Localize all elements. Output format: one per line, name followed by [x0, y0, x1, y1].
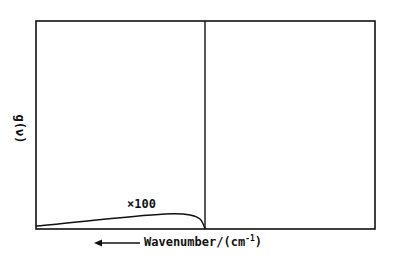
tail-curve: [36, 214, 205, 229]
y-axis-label: g(ν): [13, 115, 27, 144]
scale-annotation: ×100: [127, 197, 156, 211]
chart-plot: [0, 0, 395, 258]
x-axis-label-exponent: -1: [245, 234, 255, 243]
direction-arrow-head-icon: [94, 240, 102, 247]
x-axis-label: Wavenumber/(cm-1): [144, 234, 262, 249]
x-axis-label-main: Wavenumber/(cm: [144, 235, 245, 249]
x-axis-label-close: ): [255, 235, 262, 249]
